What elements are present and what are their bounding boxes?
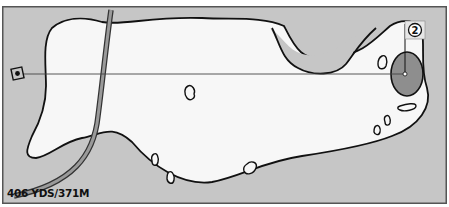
bunker	[384, 116, 390, 126]
bunker	[185, 86, 195, 100]
hole-map-svg: 2	[2, 6, 447, 204]
tee-marker	[11, 67, 24, 80]
yardage-label: 406 YDS/371M	[7, 187, 89, 199]
hole-map: 2	[2, 6, 447, 204]
bunker	[378, 56, 387, 69]
bunker	[374, 126, 380, 135]
hole-number: 2	[412, 25, 419, 36]
bunker	[152, 154, 159, 166]
bunker	[167, 172, 174, 184]
